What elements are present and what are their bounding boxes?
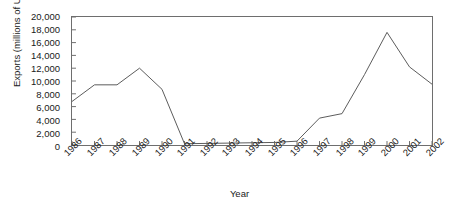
- x-tick-label: 2001: [401, 136, 423, 158]
- x-tick-label: 1999: [356, 136, 378, 158]
- x-tick-label: 1998: [334, 136, 356, 158]
- x-tick-label: 1986: [62, 136, 84, 158]
- x-axis-title: Year: [0, 188, 455, 199]
- x-tick-label: 2002: [424, 136, 446, 158]
- x-tick-label: 1992: [198, 136, 220, 158]
- x-tick-label: 1987: [85, 136, 107, 158]
- x-tick-label: 2000: [379, 136, 401, 158]
- x-tick-label: 1993: [220, 136, 242, 158]
- x-axis-tick-labels: 1986198719881989199019911992199319941995…: [0, 0, 455, 210]
- x-tick-label: 1997: [311, 136, 333, 158]
- x-tick-label: 1994: [243, 136, 265, 158]
- x-tick-label: 1990: [153, 136, 175, 158]
- x-tick-label: 1988: [107, 136, 129, 158]
- x-tick-label: 1991: [175, 136, 197, 158]
- x-tick-label: 1989: [130, 136, 152, 158]
- x-tick-label: 1996: [288, 136, 310, 158]
- exports-line-chart: Exports (millions of U.S. dollars) 20,00…: [0, 0, 455, 210]
- x-tick-label: 1995: [266, 136, 288, 158]
